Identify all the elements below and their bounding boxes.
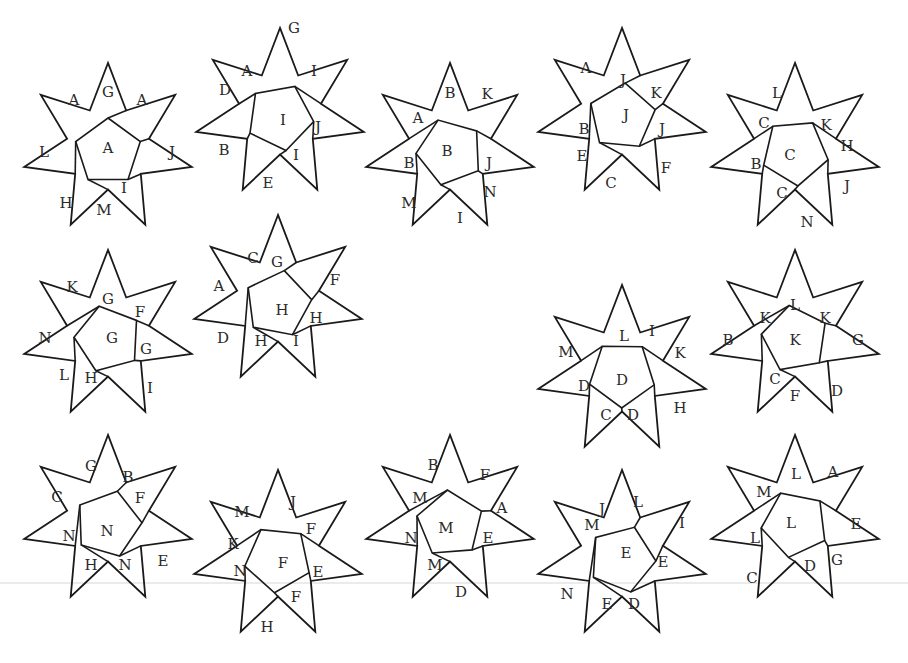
- piece-label: B: [722, 331, 733, 349]
- star-piece: JMFKFNEFH: [194, 470, 362, 636]
- piece-label: C: [776, 184, 787, 202]
- piece-label: I: [293, 332, 299, 350]
- piece-label: H: [260, 618, 273, 636]
- cut-line: [819, 361, 828, 363]
- piece-label: L: [59, 366, 69, 384]
- piece-label: A: [136, 91, 148, 109]
- star-outline: [711, 63, 879, 225]
- star-outline: [196, 28, 364, 190]
- cut-line: [825, 541, 828, 546]
- piece-label: C: [784, 146, 795, 164]
- star-outline: [538, 285, 706, 447]
- star-piece: LAMELLGDC: [711, 435, 879, 597]
- piece-label: D: [219, 81, 231, 99]
- star-outline: [194, 470, 362, 632]
- piece-label: N: [118, 556, 131, 574]
- cut-line: [309, 573, 311, 581]
- piece-label: D: [628, 595, 640, 613]
- piece-label: F: [790, 387, 800, 405]
- cut-line: [312, 291, 319, 300]
- piece-label: H: [84, 556, 97, 574]
- piece-label: A: [102, 139, 114, 157]
- cut-line: [275, 593, 279, 597]
- piece-label: D: [217, 329, 229, 347]
- piece-label: K: [227, 535, 239, 553]
- cut-line: [788, 557, 795, 561]
- piece-label: E: [577, 147, 588, 165]
- piece-label: H: [84, 369, 97, 387]
- piece-label: F: [135, 303, 145, 321]
- piece-label: I: [293, 146, 299, 164]
- piece-label: B: [122, 468, 133, 486]
- cut-line: [96, 371, 108, 377]
- cut-line: [761, 334, 762, 361]
- cut-line: [820, 501, 836, 511]
- cut-line: [761, 528, 762, 546]
- piece-label: A: [580, 59, 592, 77]
- piece-label: M: [401, 194, 416, 212]
- piece-label: C: [600, 406, 611, 424]
- piece-label: I: [649, 322, 655, 340]
- piece-label: J: [484, 154, 492, 172]
- cut-line: [108, 111, 126, 119]
- piece-label: C: [769, 370, 780, 388]
- piece-label: E: [313, 563, 324, 581]
- piece-label: G: [140, 340, 152, 358]
- piece-label: D: [831, 382, 843, 400]
- piece-label: B: [441, 142, 452, 160]
- piece-label: H: [275, 301, 288, 319]
- piece-label: E: [621, 544, 632, 562]
- piece-label: E: [658, 553, 669, 571]
- piece-label: G: [271, 253, 283, 271]
- piece-label: K: [481, 85, 493, 103]
- piece-label: H: [59, 194, 72, 212]
- cut-line: [135, 360, 141, 361]
- piece-label: L: [790, 296, 800, 314]
- piece-label: L: [772, 84, 782, 102]
- piece-label: F: [135, 489, 145, 507]
- cut-line: [780, 370, 795, 377]
- piece-label: J: [288, 493, 296, 511]
- piece-label: E: [851, 515, 862, 533]
- cut-line: [284, 263, 296, 271]
- piece-label: H: [254, 332, 267, 350]
- cut-line: [655, 104, 663, 110]
- piece-label: B: [427, 456, 438, 474]
- piece-label: A: [496, 499, 508, 517]
- piece-label: L: [750, 529, 760, 547]
- cut-line: [478, 171, 483, 174]
- piece-label: L: [791, 465, 801, 483]
- piece-label: N: [404, 529, 417, 547]
- cut-line: [245, 288, 248, 326]
- piece-label: H: [840, 137, 853, 155]
- star-piece: LKKBKGCFD: [711, 250, 879, 412]
- piece-label: B: [403, 154, 414, 172]
- cut-line: [634, 518, 640, 528]
- piece-label: G: [102, 83, 114, 101]
- cut-line: [239, 94, 255, 104]
- piece-label: D: [616, 371, 628, 389]
- piece-label: J: [621, 106, 629, 124]
- piece-label: A: [68, 91, 80, 109]
- cut-line: [762, 165, 764, 174]
- piece-label: I: [679, 514, 685, 532]
- piece-label: B: [578, 120, 589, 138]
- cut-line: [416, 153, 417, 174]
- piece-label: I: [121, 179, 127, 197]
- star-piece: GBCFNNHNE: [24, 435, 192, 597]
- piece-label: M: [234, 503, 249, 521]
- piece-label: C: [51, 488, 62, 506]
- star-piece: KGFNGGLHI: [24, 250, 192, 412]
- piece-label: F: [306, 520, 316, 538]
- star-outline: [24, 435, 192, 597]
- star-outline: [194, 215, 362, 377]
- cut-line: [313, 122, 314, 139]
- piece-label: D: [627, 406, 639, 424]
- piece-label: F: [661, 159, 671, 177]
- star-piece: LJIMEENED: [538, 470, 706, 632]
- piece-label: N: [560, 585, 573, 603]
- piece-label: F: [278, 554, 288, 572]
- cut-line: [142, 511, 149, 523]
- piece-label: F: [330, 271, 340, 289]
- piece-label: C: [605, 174, 616, 192]
